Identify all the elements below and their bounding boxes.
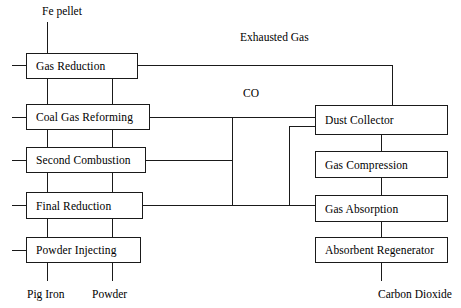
connector-gas-absorption-to-absorbent-regenerator <box>381 222 382 237</box>
stream-label-pig-iron: Pig Iron <box>27 288 64 300</box>
process-node-gas-absorption[interactable]: Gas Absorption <box>315 195 448 222</box>
connector-dust-collector-return-vertical <box>289 126 290 205</box>
connector-coal-gas-reforming-to-gas-reduction <box>112 79 113 104</box>
process-node-gas-compression[interactable]: Gas Compression <box>315 151 448 178</box>
connector-carbon-dioxide-outlet <box>381 263 382 281</box>
stream-label-co: CO <box>243 87 259 99</box>
connector-second-combustion-to-coal-gas-reforming <box>112 130 113 147</box>
connector-co-header-vertical <box>232 117 233 205</box>
process-node-label: Absorbent Regenerator <box>325 244 434 256</box>
connector-gas-compression-to-gas-absorption <box>381 178 382 195</box>
process-node-coal-gas-reforming[interactable]: Coal Gas Reforming <box>26 104 150 130</box>
connector-feed-stub-gas-reduction <box>12 65 26 66</box>
stream-label-carbon-dioxide: Carbon Dioxide <box>378 288 452 300</box>
process-node-label: Powder Injecting <box>36 244 116 256</box>
connector-final-reduction-to-gas-absorption <box>143 205 315 206</box>
process-node-second-combustion[interactable]: Second Combustion <box>26 147 146 173</box>
process-flow-diagram: Gas ReductionCoal Gas ReformingSecond Co… <box>0 0 461 308</box>
connector-feed-stub-powder-injecting <box>12 250 26 251</box>
connector-feed-stub-coal-gas-reforming <box>12 117 26 118</box>
process-node-label: Gas Reduction <box>36 60 105 72</box>
process-node-label: Gas Absorption <box>325 203 398 215</box>
process-node-label: Gas Compression <box>325 159 408 171</box>
connector-powder-injecting-to-final-reduction <box>112 219 113 237</box>
process-node-label: Second Combustion <box>36 154 131 166</box>
connector-final-reduction-to-powder-injecting <box>47 219 48 237</box>
process-node-dust-collector[interactable]: Dust Collector <box>315 105 448 135</box>
connector-dust-collector-return-horizontal <box>289 126 315 127</box>
connector-final-reduction-to-second-combustion <box>112 173 113 192</box>
connector-dust-collector-to-gas-compression <box>381 135 382 151</box>
connector-exhausted-gas-riser <box>392 65 393 105</box>
stream-label-exhausted-gas: Exhausted Gas <box>240 31 309 43</box>
process-node-label: Coal Gas Reforming <box>36 111 133 123</box>
process-node-gas-reduction[interactable]: Gas Reduction <box>26 53 138 79</box>
stream-label-powder: Powder <box>92 288 127 300</box>
process-node-label: Dust Collector <box>325 114 394 126</box>
process-node-final-reduction[interactable]: Final Reduction <box>26 192 143 219</box>
connector-second-combustion-to-final-reduction <box>47 173 48 192</box>
process-node-powder-injecting[interactable]: Powder Injecting <box>26 237 141 263</box>
connector-feed-stub-final-reduction <box>12 205 26 206</box>
connector-powder-outlet <box>112 263 113 281</box>
process-node-absorbent-regenerator[interactable]: Absorbent Regenerator <box>315 237 448 263</box>
stream-label-fe-pellet: Fe pellet <box>42 5 82 17</box>
connector-gas-reduction-to-coal-gas-reforming <box>47 79 48 104</box>
connector-feed-stub-second-combustion <box>12 160 26 161</box>
connector-fe-pellet-feed <box>47 22 48 53</box>
connector-pig-iron-outlet <box>47 263 48 281</box>
connector-second-combustion-to-header <box>146 160 232 161</box>
process-node-label: Final Reduction <box>36 200 111 212</box>
connector-coal-gas-reforming-to-second-combustion <box>47 130 48 147</box>
connector-gas-reduction-outlet-right <box>138 65 392 66</box>
